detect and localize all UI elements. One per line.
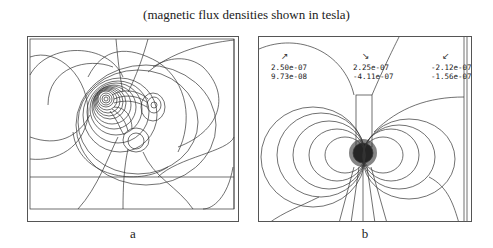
readout-2-arrow-icon: ↘ bbox=[362, 51, 370, 61]
readout-3-value1: -2.12e-07 bbox=[431, 63, 472, 72]
readout-3-value2: -1.56e-07 bbox=[431, 72, 472, 81]
panel-a-contour-plot bbox=[27, 36, 239, 222]
panel-a-label: a bbox=[123, 226, 143, 242]
panel-a-contours bbox=[28, 37, 239, 222]
readout-1-value1: 2.50e-07 bbox=[271, 63, 307, 72]
panel-b-label: b bbox=[355, 226, 375, 242]
readout-2-value1: 2.25e-07 bbox=[353, 63, 389, 72]
panel-b-contour-plot: ↗ 2.50e-07 9.73e-08 ↘ 2.25e-07 -4.11e-07… bbox=[258, 36, 472, 222]
figure-caption: (magnetic flux densities shown in tesla) bbox=[0, 7, 493, 23]
readout-1-arrow-icon: ↗ bbox=[281, 51, 289, 61]
readout-3-arrow-icon: ↙ bbox=[442, 51, 450, 61]
readout-2-value2: -4.11e-07 bbox=[353, 72, 394, 81]
readout-2: 2.25e-07 -4.11e-07 bbox=[353, 63, 394, 81]
readout-3: -2.12e-07 -1.56e-07 bbox=[431, 63, 472, 81]
readout-1: 2.50e-07 9.73e-08 bbox=[271, 63, 307, 81]
readout-1-value2: 9.73e-08 bbox=[271, 72, 307, 81]
